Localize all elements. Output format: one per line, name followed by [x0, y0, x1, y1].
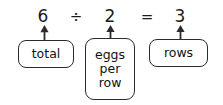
- division-equation-diagram: 6 ÷ 2 = 3 total eggs per row rows: [0, 0, 223, 105]
- dividend-label-text: total: [32, 47, 61, 61]
- division-operator-icon: ÷: [67, 9, 85, 26]
- divisor-label-text-line1: eggs: [95, 48, 125, 62]
- quotient-label-text: rows: [164, 46, 193, 60]
- quotient-label-box: rows: [149, 39, 208, 67]
- equals-operator-icon: =: [138, 9, 156, 26]
- divisor-label-text-line3: row: [99, 76, 122, 90]
- arrow-up-icon-dividend: [38, 25, 51, 41]
- divisor-label-text-line2: per: [100, 62, 121, 76]
- arrow-up-icon-divisor: [104, 25, 117, 39]
- divisor-value: 2: [101, 8, 119, 25]
- arrow-up-icon-quotient: [174, 25, 187, 40]
- quotient-value: 3: [171, 8, 189, 25]
- divisor-label-box: eggs per row: [85, 38, 135, 100]
- dividend-value: 6: [34, 8, 52, 25]
- dividend-label-box: total: [18, 40, 74, 68]
